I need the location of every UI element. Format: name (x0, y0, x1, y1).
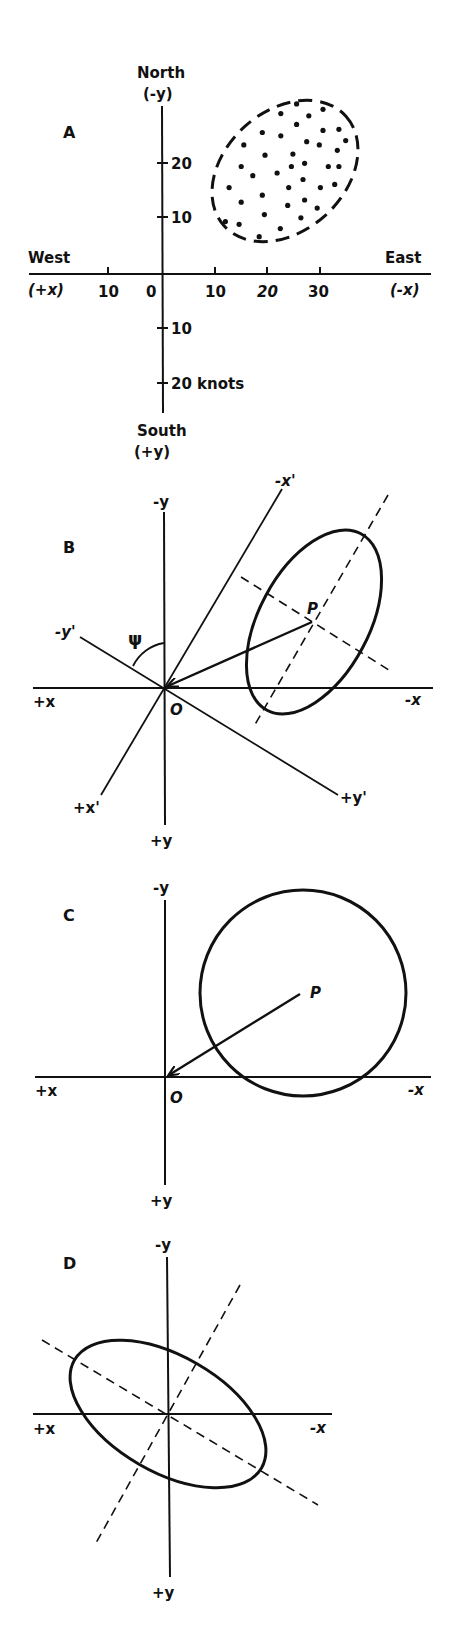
velocity-point (343, 138, 348, 143)
velocity-point (294, 101, 299, 106)
north-label: North (137, 64, 185, 82)
panel-d-label: D (63, 1254, 76, 1273)
velocity-point (304, 139, 309, 144)
c-neg-x-label: -x (408, 1081, 425, 1099)
velocity-points (223, 101, 349, 239)
c-pos-y-label: +y (150, 1192, 173, 1210)
b-arrow-p-to-o (168, 622, 312, 686)
b-pos-x-prime-label: +x' (73, 799, 100, 817)
b-neg-x-prime-label: -x' (275, 472, 296, 490)
velocity-point (223, 219, 228, 224)
east-label: East (385, 249, 421, 267)
velocity-point (306, 113, 311, 118)
b-origin-label: O (170, 701, 183, 719)
east-sub-label: (-x) (390, 281, 420, 299)
d-y-axis (167, 1257, 170, 1577)
velocity-point (239, 200, 244, 205)
c-pos-x-label: +x (35, 1082, 58, 1100)
velocity-point (278, 133, 283, 138)
panel-a-label: A (63, 123, 76, 142)
velocity-point (289, 164, 294, 169)
velocity-point (302, 161, 307, 166)
panel-d: D -y +x -x +y (33, 1236, 332, 1602)
velocity-point (278, 111, 283, 116)
velocity-point (318, 185, 323, 190)
c-point-p-label: P (310, 984, 321, 1002)
velocity-point (257, 234, 262, 239)
velocity-point (250, 173, 255, 178)
west-label: West (28, 249, 70, 267)
panel-c-label: C (63, 906, 75, 925)
d-pos-x-label: +x (33, 1420, 56, 1438)
x-tick-west-10: 10 (98, 283, 119, 301)
c-neg-y-label: -y (153, 879, 169, 897)
b-neg-x-label: -x (405, 691, 422, 709)
c-arrow-p-to-o (169, 994, 300, 1075)
b-y-prime-axis (80, 637, 338, 795)
north-south-axis (162, 106, 163, 413)
b-y-axis (164, 512, 165, 825)
x-tick-east-20: 20 (257, 283, 278, 301)
velocity-point (278, 226, 283, 231)
velocity-point (317, 142, 322, 147)
b-neg-y-label: -y (153, 493, 169, 511)
velocity-point (315, 206, 320, 211)
velocity-point (332, 182, 337, 187)
y-tick-north-10: 10 (171, 209, 192, 227)
velocity-point (302, 197, 307, 202)
y-tick-north-20: 20 (171, 155, 192, 173)
velocity-point (290, 152, 295, 157)
north-sub-label: (-y) (143, 85, 173, 103)
west-sub-label: (+x) (28, 281, 64, 299)
d-neg-x-label: -x (310, 1419, 327, 1437)
y-tick-south-20-knots: 20 knots (171, 375, 244, 393)
d-neg-y-label: -y (155, 1236, 171, 1254)
velocity-point (294, 122, 299, 127)
b-minor-axis-dashed (241, 577, 392, 672)
d-major-axis-dashed (42, 1340, 318, 1505)
velocity-point (262, 212, 267, 217)
velocity-point (239, 164, 244, 169)
panel-b: B -y -x' -y' ψ +x -x O P +x' +y' +y (33, 472, 433, 850)
velocity-point (260, 130, 265, 135)
velocity-point (336, 127, 341, 132)
velocity-point (326, 164, 331, 169)
c-origin-label: O (170, 1089, 183, 1107)
x-tick-0: 0 (146, 283, 156, 301)
panel-a: A North (-y) West (+x) East (-x) South (… (28, 64, 431, 461)
south-label: South (137, 422, 187, 440)
velocity-point (320, 107, 325, 112)
panel-c: C -y +x -x O P +y (35, 879, 431, 1210)
c-circle (200, 890, 406, 1096)
velocity-point (241, 142, 246, 147)
velocity-point (237, 222, 242, 227)
figure-canvas: A North (-y) West (+x) East (-x) South (… (0, 0, 464, 1632)
velocity-point (298, 215, 303, 220)
b-pos-x-label: +x (33, 693, 56, 711)
x-tick-east-10: 10 (205, 283, 226, 301)
b-pos-y-label: +y (150, 832, 173, 850)
y-tick-south-10: 10 (171, 320, 192, 338)
b-major-axis-dashed (253, 495, 388, 728)
south-sub-label: (+y) (134, 443, 170, 461)
b-ellipse (218, 508, 409, 736)
d-pos-y-label: +y (152, 1584, 175, 1602)
velocity-point (227, 185, 232, 190)
velocity-envelope-ellipse (184, 72, 386, 271)
b-psi-label: ψ (128, 628, 142, 649)
velocity-point (262, 153, 267, 158)
b-pos-y-prime-label: +y' (340, 789, 367, 807)
velocity-point (260, 193, 265, 198)
velocity-point (285, 203, 290, 208)
velocity-point (300, 177, 305, 182)
velocity-point (320, 128, 325, 133)
velocity-point (336, 164, 341, 169)
x-ticks: 10 0 10 20 30 (98, 267, 329, 301)
panel-b-label: B (63, 538, 75, 557)
velocity-point (335, 148, 340, 153)
b-neg-y-prime-label: -y' (55, 623, 76, 641)
x-tick-east-30: 30 (308, 283, 329, 301)
velocity-point (275, 170, 280, 175)
b-point-p-label: P (307, 600, 318, 618)
velocity-point (286, 185, 291, 190)
